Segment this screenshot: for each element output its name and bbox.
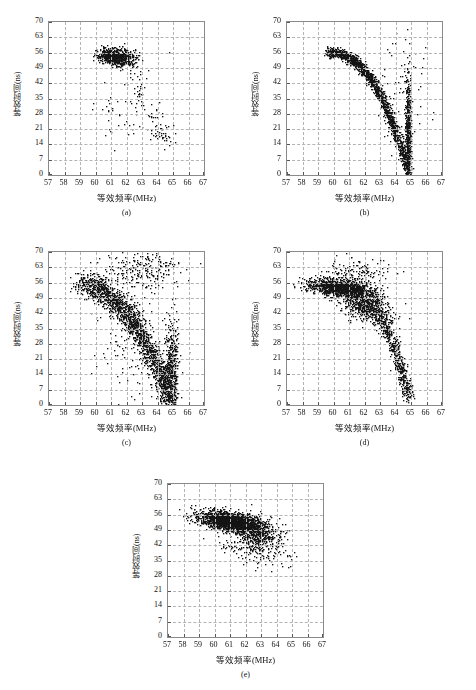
gridline-horizontal bbox=[49, 160, 204, 161]
x-tick-label: 60 bbox=[329, 409, 337, 417]
x-tick-mark bbox=[142, 172, 143, 175]
x-tick-label: 62 bbox=[360, 179, 368, 187]
y-tick-label: 21 bbox=[273, 124, 281, 132]
x-tick-label: 57 bbox=[44, 179, 52, 187]
y-tick-label: 70 bbox=[35, 17, 43, 25]
x-tick-label: 65 bbox=[406, 179, 414, 187]
y-tick-label: 56 bbox=[273, 278, 281, 286]
y-tick-label: 49 bbox=[35, 293, 43, 301]
x-tick-mark bbox=[441, 172, 442, 175]
y-tick-label: 28 bbox=[273, 109, 281, 117]
y-tick-label: 42 bbox=[35, 308, 43, 316]
x-tick-mark bbox=[318, 172, 319, 175]
y-tick-label: 42 bbox=[273, 78, 281, 86]
gridline-horizontal bbox=[287, 68, 442, 69]
x-tick-label: 60 bbox=[91, 409, 99, 417]
x-tick-label: 59 bbox=[313, 179, 321, 187]
y-tick-label: 56 bbox=[35, 278, 43, 286]
x-tick-label: 65 bbox=[168, 179, 176, 187]
panel-a: 等效时间(ns) 07142128354249566370 5758596061… bbox=[0, 0, 238, 228]
y-tick-label: 70 bbox=[273, 17, 281, 25]
y-tick-mark bbox=[49, 298, 52, 299]
gridline-horizontal bbox=[49, 53, 204, 54]
x-tick-mark bbox=[334, 172, 335, 175]
panel-e-caption: (e) bbox=[167, 670, 324, 679]
x-tick-label: 63 bbox=[137, 409, 145, 417]
y-tick-mark bbox=[168, 591, 171, 592]
y-tick-mark bbox=[287, 37, 290, 38]
x-tick-label: 64 bbox=[153, 409, 161, 417]
gridline-horizontal bbox=[49, 344, 204, 345]
panel-b-plot-area bbox=[286, 21, 443, 176]
y-tick-mark bbox=[287, 68, 290, 69]
x-tick-label: 64 bbox=[391, 409, 399, 417]
gridline-horizontal bbox=[287, 99, 442, 100]
x-tick-mark bbox=[158, 172, 159, 175]
y-tick-mark bbox=[287, 374, 290, 375]
x-tick-label: 63 bbox=[137, 179, 145, 187]
y-tick-label: 28 bbox=[154, 571, 162, 579]
gridline-horizontal bbox=[49, 68, 204, 69]
x-tick-label: 65 bbox=[168, 409, 176, 417]
gridline-horizontal bbox=[49, 114, 204, 115]
x-tick-label: 67 bbox=[437, 409, 445, 417]
y-tick-label: 70 bbox=[273, 247, 281, 255]
y-tick-mark bbox=[168, 606, 171, 607]
x-tick-label: 63 bbox=[375, 179, 383, 187]
y-tick-label: 49 bbox=[273, 63, 281, 71]
x-tick-mark bbox=[80, 172, 81, 175]
y-tick-mark bbox=[49, 114, 52, 115]
panel-d: 等效时间(ns) 07142128354249566370 5758596061… bbox=[238, 230, 476, 458]
gridline-horizontal bbox=[287, 267, 442, 268]
y-tick-mark bbox=[287, 174, 290, 175]
panel-e-y-axis-label: 等效时间(ns) bbox=[131, 496, 145, 616]
x-tick-mark bbox=[184, 634, 185, 637]
y-tick-label: 35 bbox=[35, 94, 43, 102]
y-tick-label: 63 bbox=[273, 32, 281, 40]
panel-a-y-tick-labels: 07142128354249566370 bbox=[27, 21, 43, 176]
y-tick-label: 7 bbox=[277, 385, 281, 393]
x-tick-mark bbox=[349, 172, 350, 175]
y-tick-mark bbox=[49, 313, 52, 314]
x-tick-mark bbox=[427, 172, 428, 175]
x-tick-label: 58 bbox=[60, 409, 68, 417]
panel-d-caption: (d) bbox=[286, 438, 443, 447]
y-tick-mark bbox=[168, 545, 171, 546]
y-tick-mark bbox=[49, 329, 52, 330]
x-tick-label: 64 bbox=[272, 641, 280, 649]
gridline-horizontal bbox=[168, 606, 323, 607]
x-tick-mark bbox=[203, 172, 204, 175]
y-tick-label: 63 bbox=[154, 494, 162, 502]
y-tick-mark bbox=[49, 83, 52, 84]
y-tick-mark bbox=[287, 359, 290, 360]
gridline-horizontal bbox=[168, 576, 323, 577]
x-tick-label: 58 bbox=[298, 409, 306, 417]
y-tick-mark bbox=[287, 267, 290, 268]
gridline-horizontal bbox=[49, 313, 204, 314]
x-tick-mark bbox=[215, 634, 216, 637]
gridline-horizontal bbox=[168, 591, 323, 592]
gridline-horizontal bbox=[287, 313, 442, 314]
x-tick-label: 59 bbox=[194, 641, 202, 649]
x-tick-mark bbox=[292, 634, 293, 637]
x-tick-label: 58 bbox=[179, 641, 187, 649]
gridline-horizontal bbox=[287, 298, 442, 299]
gridline-horizontal bbox=[168, 515, 323, 516]
y-tick-label: 14 bbox=[273, 139, 281, 147]
y-tick-mark bbox=[49, 53, 52, 54]
gridline-horizontal bbox=[287, 144, 442, 145]
y-tick-mark bbox=[49, 374, 52, 375]
x-tick-label: 66 bbox=[422, 409, 430, 417]
y-tick-label: 42 bbox=[35, 78, 43, 86]
x-tick-mark bbox=[365, 172, 366, 175]
y-tick-label: 49 bbox=[154, 525, 162, 533]
y-tick-mark bbox=[168, 636, 171, 637]
x-tick-label: 67 bbox=[199, 179, 207, 187]
x-tick-label: 57 bbox=[282, 409, 290, 417]
y-tick-mark bbox=[168, 576, 171, 577]
x-tick-label: 67 bbox=[318, 641, 326, 649]
y-tick-label: 28 bbox=[273, 339, 281, 347]
y-tick-label: 0 bbox=[158, 632, 162, 640]
y-tick-label: 14 bbox=[154, 601, 162, 609]
y-tick-mark bbox=[49, 174, 52, 175]
